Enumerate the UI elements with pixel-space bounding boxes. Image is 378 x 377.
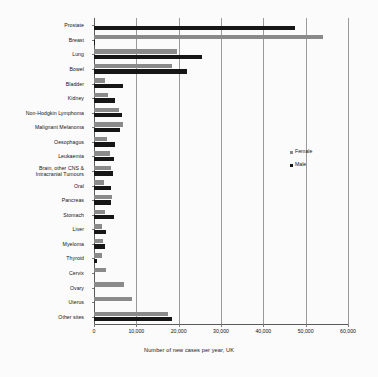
bar-row [94,207,348,222]
bar-row [94,62,348,77]
bar-female [94,253,102,257]
bar-male [94,215,114,219]
bar-female [94,268,106,272]
y-axis-label: Bowel [70,66,84,72]
bar-female [94,93,108,97]
bar-row [94,222,348,237]
y-axis-label: Oral [74,183,84,189]
bar-row [94,193,348,208]
y-axis-label: Oesophagus [54,139,84,145]
y-axis-label: Pancreas [62,197,84,203]
bar-female [94,239,103,243]
bar-male [94,230,106,234]
x-axis-tick [306,324,307,327]
legend-swatch-male [290,164,293,167]
y-axis-label: Ovary [70,285,84,291]
y-axis-label: Myeloma [63,241,84,247]
x-axis-tick-label: 30,000 [213,328,229,334]
bar-row [94,76,348,91]
bar-row [94,309,348,324]
y-axis-label: Liver [73,226,85,232]
bar-female [94,49,177,53]
bar-female [94,312,168,316]
y-axis-label: Brain, other CNS & Intracranial Tumours [36,165,84,177]
bar-row [94,47,348,62]
x-axis-tick-label: 50,000 [298,328,314,334]
x-axis-tick [348,324,349,327]
bar-row [94,251,348,266]
y-axis-label: Thyroid [66,255,84,261]
bar-row [94,120,348,135]
bar-male [94,186,111,190]
x-axis-title: Number of new cases per year, UK [0,347,378,353]
x-axis-tick-label: 10,000 [128,328,144,334]
bar-female [94,297,132,301]
bar-male [94,200,111,204]
bar-male [94,259,97,263]
x-axis-tick [94,324,95,327]
bar-male [94,84,123,88]
y-axis-label: Non-Hodgkin Lymphoma [26,110,84,116]
y-axis-label: Breast [69,37,84,43]
bar-row [94,295,348,310]
bar-male [94,98,115,102]
x-axis-tick [179,324,180,327]
legend-swatch-female [290,151,293,154]
bar-female [94,180,104,184]
y-axis-label: Malignant Melanoma [35,124,84,130]
bar-row [94,105,348,120]
bar-female [94,224,102,228]
bar-row [94,237,348,252]
bar-male [94,113,122,117]
bar-row [94,164,348,179]
bar-row [94,33,348,48]
bar-female [94,166,111,170]
y-axis-category-labels: ProstateBreastLungBowelBladderKidneyNon-… [0,18,90,324]
bar-row [94,280,348,295]
bar-male [94,26,295,30]
bar-male [94,128,120,132]
x-axis-tick [221,324,222,327]
bar-row [94,266,348,281]
bar-row [94,178,348,193]
bar-female [94,151,110,155]
y-axis-label: Other sites [58,314,84,320]
y-axis-label: Uterus [68,299,84,305]
y-axis-label: Stomach [63,212,84,218]
x-axis-tick-label: 40,000 [255,328,271,334]
bar-row [94,91,348,106]
bar-rows [94,18,348,324]
x-axis-tick-label: 0 [93,328,96,334]
bar-female [94,137,107,141]
bar-male [94,157,114,161]
bar-male [94,317,172,321]
bar-male [94,171,113,175]
x-axis-tick-label: 60,000 [340,328,356,334]
y-axis-label: Kidney [68,95,84,101]
bar-row [94,18,348,33]
bar-female [94,210,105,214]
bar-chart: ProstateBreastLungBowelBladderKidneyNon-… [0,0,378,377]
y-axis-label: Cervix [69,270,84,276]
y-axis-label: Lung [72,51,84,57]
bar-female [94,122,123,126]
y-axis-label: Prostate [64,22,84,28]
legend-label: Female [295,148,312,154]
bar-female [94,108,119,112]
bar-male [94,55,202,59]
y-axis-label: Bladder [66,81,84,87]
y-axis-label: Leukaemia [58,153,84,159]
bar-male [94,142,115,146]
x-axis-tick-label: 20,000 [171,328,187,334]
x-axis-tick [136,324,137,327]
x-axis-tick [263,324,264,327]
legend-label: Male [295,161,306,167]
bar-male [94,40,95,44]
bar-female [94,35,323,39]
bar-female [94,78,105,82]
gridline-60000 [348,18,349,324]
bar-row [94,135,348,150]
bar-female [94,195,112,199]
bar-male [94,69,187,73]
bar-male [94,244,105,248]
